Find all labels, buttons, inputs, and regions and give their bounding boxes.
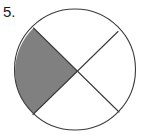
circle-diagram <box>0 0 148 139</box>
figure-root: 5. <box>0 0 148 139</box>
